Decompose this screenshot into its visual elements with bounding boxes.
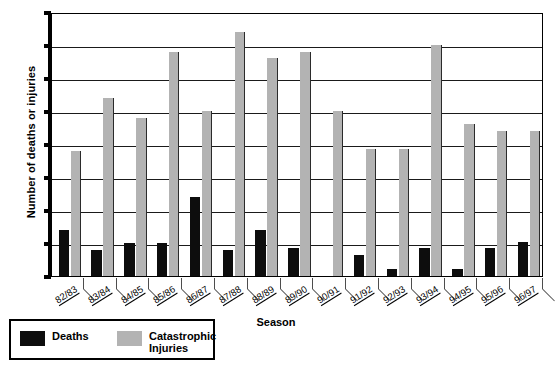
bar-injuries [366, 149, 377, 276]
plot-inner [52, 14, 542, 276]
bar-group [413, 14, 446, 276]
bar-deaths [485, 248, 496, 276]
bar-group [347, 14, 380, 276]
bar-deaths [354, 255, 365, 276]
bar-deaths [91, 250, 102, 276]
x-tick-label: 94/95 [447, 283, 474, 306]
x-tick-label: 91/92 [348, 283, 375, 306]
bar-injuries [300, 52, 311, 276]
x-tick-label: 85/86 [151, 283, 178, 306]
bar-group [150, 14, 183, 276]
bar-injuries [103, 98, 114, 276]
y-tick-mark [44, 242, 51, 246]
x-tick-label: 95/96 [479, 283, 506, 306]
bar-deaths [288, 248, 299, 276]
x-tick-label: 83/84 [86, 283, 113, 306]
bar-injuries [530, 131, 541, 276]
x-tick-label: 82/83 [53, 283, 80, 306]
y-tick-mark [44, 275, 51, 279]
y-tick-mark [44, 77, 51, 81]
legend-label: Catastrophic Injuries [149, 330, 216, 354]
y-tick-mark [44, 143, 51, 147]
bar-injuries [235, 32, 246, 276]
bar-group [511, 14, 544, 276]
y-tick-mark [44, 11, 51, 15]
bar-injuries [464, 124, 475, 276]
bar-injuries [267, 58, 278, 276]
bar-deaths [255, 230, 266, 276]
bar-deaths [223, 250, 234, 276]
bar-injuries [71, 151, 82, 276]
y-axis-title: Number of deaths or injuries [25, 7, 37, 277]
x-tick-label: 90/91 [315, 283, 342, 306]
bar-group [478, 14, 511, 276]
bar-injuries [136, 118, 147, 276]
bar-group [216, 14, 249, 276]
legend-swatch-deaths [20, 331, 45, 346]
bar-deaths [157, 243, 168, 276]
bar-group [446, 14, 479, 276]
x-tick-label: 84/85 [119, 283, 146, 306]
legend-entry: Deaths [20, 330, 89, 346]
x-tick-label: 87/88 [217, 283, 244, 306]
bar-deaths [518, 242, 529, 276]
chart-legend: DeathsCatastrophic Injuries [9, 319, 215, 360]
bar-deaths [59, 230, 70, 276]
y-tick-mark [44, 176, 51, 180]
x-tick-label: 93/94 [414, 283, 441, 306]
y-tick-mark [44, 110, 51, 114]
bar-group [249, 14, 282, 276]
plot-area [51, 13, 543, 277]
x-tick-label: 96/97 [512, 283, 539, 306]
x-tick-label: 89/90 [283, 283, 310, 306]
bar-deaths [124, 243, 135, 276]
x-tick-label: 88/89 [250, 283, 277, 306]
bar-injuries [431, 45, 442, 276]
bar-group [380, 14, 413, 276]
bar-group [314, 14, 347, 276]
legend-label: Deaths [52, 330, 89, 342]
bar-group [85, 14, 118, 276]
legend-entry: Catastrophic Injuries [117, 330, 216, 354]
bar-injuries [202, 111, 213, 276]
bar-group [282, 14, 315, 276]
bar-injuries [399, 149, 410, 276]
x-tick-label: 86/87 [184, 283, 211, 306]
x-tick-label: 92/93 [381, 283, 408, 306]
x-label-leader [542, 289, 555, 302]
bar-group [118, 14, 151, 276]
bar-injuries [169, 52, 180, 276]
y-tick-mark [44, 209, 51, 213]
legend-swatch-injuries [117, 331, 142, 346]
bar-injuries [333, 111, 344, 276]
y-tick-mark [44, 44, 51, 48]
bar-deaths [419, 248, 430, 276]
bar-group [183, 14, 216, 276]
bar-deaths [452, 269, 463, 276]
bar-deaths [190, 197, 201, 276]
bar-injuries [497, 131, 508, 276]
bar-deaths [387, 269, 398, 276]
bar-group [52, 14, 85, 276]
